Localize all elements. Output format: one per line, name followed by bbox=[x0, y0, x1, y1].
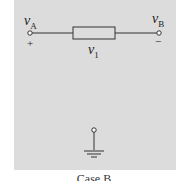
resistor-element bbox=[73, 27, 115, 39]
node-a-polarity: + bbox=[27, 38, 33, 49]
terminal-a bbox=[28, 31, 32, 35]
node-b-label: vB bbox=[152, 12, 164, 29]
figure-caption: Case B bbox=[0, 172, 188, 181]
node-a-label: vA bbox=[24, 14, 37, 31]
ground-icon bbox=[84, 128, 104, 157]
element-label: v1 bbox=[88, 43, 99, 60]
node-b-polarity: − bbox=[155, 36, 161, 47]
